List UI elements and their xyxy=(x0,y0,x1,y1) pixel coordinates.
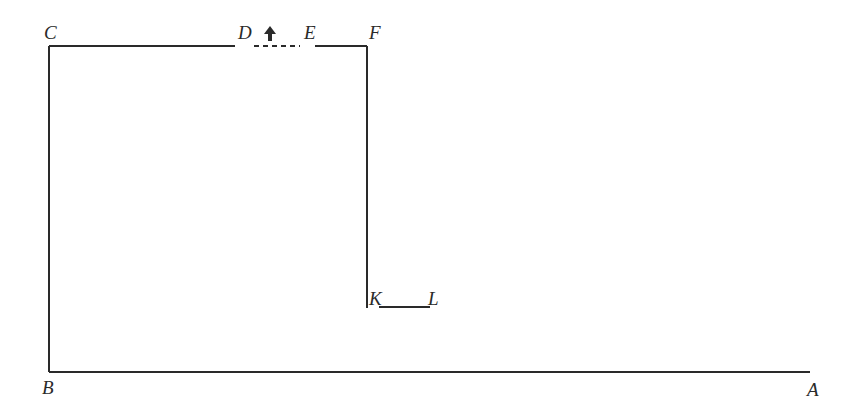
label-e: E xyxy=(304,23,316,42)
label-l: L xyxy=(428,289,439,308)
diagram-canvas xyxy=(0,0,859,411)
label-f: F xyxy=(369,23,381,42)
label-a: A xyxy=(807,380,819,399)
label-c: C xyxy=(44,23,57,42)
label-d: D xyxy=(238,23,252,42)
up-arrow-icon xyxy=(264,26,276,41)
label-b: B xyxy=(42,378,54,397)
label-k: K xyxy=(369,289,382,308)
